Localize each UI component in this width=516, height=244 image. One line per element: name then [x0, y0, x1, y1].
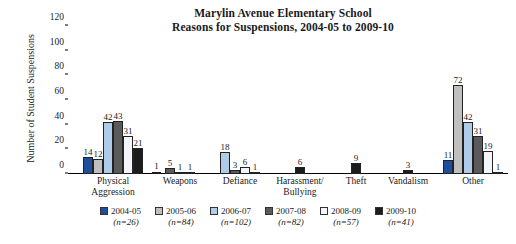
bar-value-label: 3 — [233, 161, 238, 170]
y-axis-tick-label: 0 — [38, 161, 64, 170]
suspensions-bar-chart: Marylin Avenue Elementary School Reasons… — [0, 0, 516, 244]
legend-sample-size: (n=102) — [221, 217, 251, 228]
y-axis-tick-label: 100 — [38, 37, 64, 46]
bar: 1 — [152, 172, 161, 174]
legend-swatch-icon — [320, 207, 328, 215]
bar-group-bars: 3 — [353, 26, 413, 174]
bar: 3 — [230, 170, 240, 174]
bar-group-bars: 6 — [245, 26, 305, 174]
legend-swatch-icon — [265, 207, 273, 215]
y-axis-tick-label: 20 — [38, 136, 64, 145]
bar-value-label: 11 — [444, 151, 453, 160]
legend-sample-size: (n=41) — [386, 217, 416, 228]
y-axis-tick-mark — [65, 99, 68, 100]
bar: 1 — [185, 172, 195, 174]
chart-legend: 2004-05(n=26)2005-06(n=84)2006-07(n=102)… — [0, 206, 516, 227]
legend-sample-size: (n=57) — [331, 217, 361, 228]
y-axis-tick-mark — [65, 25, 68, 26]
bar-value-label: 18 — [221, 143, 230, 152]
y-axis-tick-label: 80 — [38, 62, 64, 71]
bar: 19 — [483, 151, 493, 174]
bar-value-label: 43 — [114, 112, 123, 121]
bar-value-label: 3 — [406, 161, 411, 170]
bar-group-bars: 9 — [301, 26, 361, 174]
y-axis-tick-mark — [65, 148, 68, 149]
bar-value-label: 31 — [474, 127, 483, 136]
legend-label: 2009-10(n=41) — [386, 206, 416, 227]
bar-value-label: 72 — [454, 76, 463, 85]
y-axis-tick-mark — [65, 49, 68, 50]
plot-area: 020406080100120141242433121PhysicalAggre… — [68, 26, 508, 174]
legend-swatch-icon — [210, 207, 218, 215]
bar: 43 — [113, 121, 123, 174]
bar-value-label: 1 — [496, 163, 501, 172]
bar-value-label: 42 — [104, 113, 113, 122]
bar-group-bars: 11724231191 — [443, 26, 503, 174]
bar-value-label: 1 — [188, 163, 193, 172]
bar-value-label: 42 — [464, 113, 473, 122]
bar-group-bars: 511 — [135, 26, 195, 174]
bar: 42 — [463, 122, 473, 174]
legend-item[interactable]: 2005-06(n=84) — [155, 206, 196, 227]
bar-value-label: 31 — [124, 127, 133, 136]
y-axis-tick-label: 60 — [38, 87, 64, 96]
legend-swatch-icon — [375, 207, 383, 215]
bar: 31 — [473, 136, 483, 174]
y-axis-tick-mark — [65, 123, 68, 124]
legend-item[interactable]: 2008-09(n=57) — [320, 206, 361, 227]
legend-sample-size: (n=26) — [111, 217, 141, 228]
y-axis-tick-label: 40 — [38, 111, 64, 120]
legend-label: 2008-09(n=57) — [331, 206, 361, 227]
legend-label: 2005-06(n=84) — [166, 206, 196, 227]
legend-sample-size: (n=84) — [166, 217, 196, 228]
x-axis-category-label: Other — [430, 176, 516, 187]
bar: 31 — [123, 136, 133, 174]
legend-item[interactable]: 2006-07(n=102) — [210, 206, 251, 227]
bar-value-label: 5 — [168, 159, 173, 168]
bar: 42 — [103, 122, 113, 174]
legend-sample-size: (n=82) — [276, 217, 306, 228]
bar-value-label: 1 — [154, 162, 159, 171]
legend-label: 2006-07(n=102) — [221, 206, 251, 227]
chart-title: Marylin Avenue Elementary School — [118, 6, 448, 20]
y-axis-label: Number of Student Suspensions — [25, 14, 36, 184]
legend-swatch-icon — [100, 207, 108, 215]
legend-item[interactable]: 2007-08(n=82) — [265, 206, 306, 227]
bar: 11 — [443, 160, 453, 174]
legend-item[interactable]: 2004-05(n=26) — [100, 206, 141, 227]
bar: 12 — [93, 159, 103, 174]
bar: 1 — [493, 172, 503, 174]
y-axis-tick-mark — [65, 74, 68, 75]
bar: 1 — [175, 172, 185, 174]
y-axis-tick-mark — [65, 173, 68, 174]
bar-value-label: 1 — [178, 163, 183, 172]
legend-label: 2007-08(n=82) — [276, 206, 306, 227]
bar: 14 — [83, 157, 93, 174]
legend-item[interactable]: 2009-10(n=41) — [375, 206, 416, 227]
bar-value-label: 12 — [94, 150, 103, 159]
y-axis-tick-label: 120 — [38, 13, 64, 22]
bar: 18 — [220, 152, 230, 174]
bar: 5 — [165, 168, 175, 174]
legend-swatch-icon — [155, 207, 163, 215]
legend-label: 2004-05(n=26) — [111, 206, 141, 227]
bar: 72 — [453, 85, 463, 174]
bar-group-bars: 141242433121 — [83, 26, 143, 174]
bar-value-label: 14 — [84, 148, 93, 157]
bar-value-label: 19 — [484, 142, 493, 151]
bar: 3 — [403, 170, 413, 174]
